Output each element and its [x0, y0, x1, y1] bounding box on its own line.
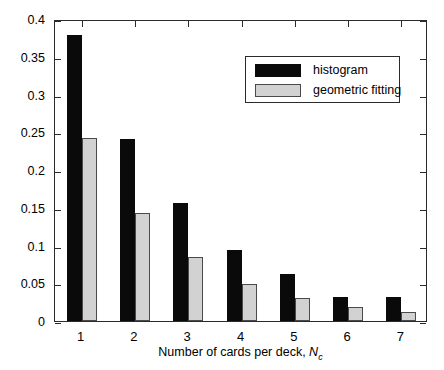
x-axis-title: Number of cards per deck, Nc [54, 345, 427, 362]
bar-histogram-4 [227, 250, 242, 321]
bar-geometric-fitting-1 [82, 138, 97, 321]
legend-swatch-histogram [255, 64, 301, 77]
y-tick-mark [55, 323, 61, 324]
x-tick-label: 1 [61, 329, 101, 344]
bar-geometric-fitting-2 [135, 213, 150, 321]
legend-label-geometric-fitting: geometric fitting [313, 83, 401, 97]
bar-histogram-6 [333, 297, 348, 321]
x-axis-title-variable: N [309, 345, 318, 359]
legend-swatch-geometric-fitting [255, 84, 301, 97]
figure-canvas: Probability 00.050.10.150.20.250.30.350.… [0, 0, 444, 370]
bar-geometric-fitting-5 [295, 298, 310, 321]
legend-box: histogram geometric fitting [245, 56, 400, 103]
bar-geometric-fitting-3 [188, 257, 203, 321]
legend-entry-geometric-fitting: geometric fitting [255, 82, 401, 98]
x-axis-title-subscript: c [318, 352, 323, 362]
bar-geometric-fitting-7 [401, 312, 416, 321]
bar-histogram-5 [280, 274, 295, 321]
bar-histogram-3 [173, 203, 188, 321]
legend-label-histogram: histogram [313, 63, 368, 77]
x-tick-label: 6 [327, 329, 367, 344]
x-tick-label: 4 [221, 329, 261, 344]
legend-entry-histogram: histogram [255, 62, 368, 78]
x-tick-label: 2 [114, 329, 154, 344]
bar-histogram-1 [67, 35, 82, 321]
bar-histogram-2 [120, 139, 135, 321]
bar-geometric-fitting-4 [242, 284, 257, 321]
bar-geometric-fitting-6 [348, 307, 363, 321]
x-tick-label: 7 [380, 329, 420, 344]
x-tick-label: 5 [274, 329, 314, 344]
x-tick-label: 3 [167, 329, 207, 344]
bar-histogram-7 [386, 297, 401, 321]
y-tick-mark-right [420, 323, 426, 324]
